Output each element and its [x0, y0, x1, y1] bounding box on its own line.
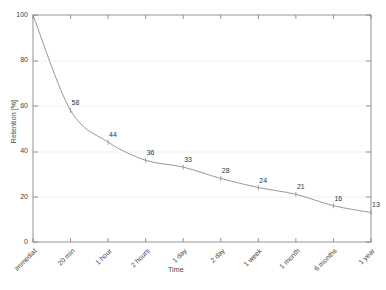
y-tick-60: 60 [8, 102, 28, 109]
data-label: 24 [259, 177, 267, 184]
data-label: 16 [334, 195, 342, 202]
data-label: 33 [184, 156, 192, 163]
forgetting-curve-figure: .grid{stroke:#e9e9e9;stroke-width:0.7;} … [0, 0, 386, 290]
plot-frame [33, 15, 371, 242]
data-label: 21 [297, 183, 305, 190]
data-point-markers [71, 108, 371, 215]
y-axis-label: Retention [%] [10, 92, 17, 152]
retention-curve [33, 15, 371, 212]
data-label: 44 [109, 131, 117, 138]
x-axis-ticks [33, 15, 371, 242]
gridlines [33, 61, 371, 197]
data-label: 36 [147, 149, 155, 156]
data-label: 58 [72, 99, 80, 106]
y-tick-20: 20 [8, 193, 28, 200]
y-axis-ticks [33, 15, 371, 242]
chart-canvas: .grid{stroke:#e9e9e9;stroke-width:0.7;} … [0, 0, 386, 290]
y-tick-80: 80 [8, 56, 28, 63]
y-tick-40: 40 [8, 147, 28, 154]
y-tick-100: 100 [8, 11, 28, 18]
y-tick-0: 0 [8, 238, 28, 245]
data-label: 13 [372, 201, 380, 208]
data-label: 28 [222, 167, 230, 174]
